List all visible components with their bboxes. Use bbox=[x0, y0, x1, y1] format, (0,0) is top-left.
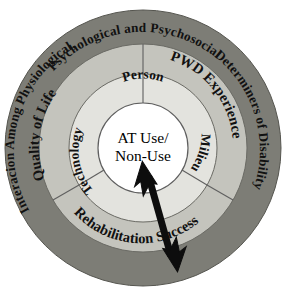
diagram-canvas: Interacion Among Physiological, Psycholo… bbox=[0, 0, 286, 295]
center-label-line-1: AT Use/ bbox=[118, 129, 170, 146]
concentric-wheel-diagram: Interacion Among Physiological, Psycholo… bbox=[0, 0, 286, 295]
